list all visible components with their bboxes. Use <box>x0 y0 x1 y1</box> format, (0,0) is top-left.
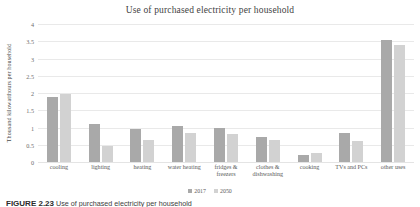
x-axis-label: heating <box>122 164 164 186</box>
x-axis-label: water heating <box>163 164 205 186</box>
y-tick-label: 0.5 <box>26 141 34 148</box>
figure-caption-rest: Use of purchased electricity per househo… <box>54 200 192 207</box>
y-tick-label: 1.5 <box>26 107 34 114</box>
bar[interactable] <box>185 133 196 162</box>
bar[interactable] <box>381 40 392 162</box>
bars-layer <box>38 24 414 162</box>
plot-area: 43.532.521.510.50 <box>38 24 414 162</box>
y-tick-label: 2 <box>31 90 34 97</box>
x-axis-labels: coolinglightingheatingwater heatingfridg… <box>38 164 414 186</box>
x-axis-label: clothes & dishwashing <box>247 164 289 186</box>
legend-item[interactable]: 2017 <box>188 188 206 194</box>
bar[interactable] <box>269 140 280 162</box>
chart-title: Use of purchased electricity per househo… <box>0 5 420 15</box>
chart-legend: 20172050 <box>0 188 420 194</box>
bar[interactable] <box>298 155 309 162</box>
x-axis-label: cooking <box>289 164 331 186</box>
y-tick-label: 1 <box>31 124 34 131</box>
bar[interactable] <box>89 124 100 162</box>
y-axis-title-label: Thousand kilowatthours per household <box>7 44 13 143</box>
bar-group <box>122 24 164 162</box>
bar[interactable] <box>47 97 58 162</box>
legend-item[interactable]: 2050 <box>214 188 232 194</box>
bar-group <box>372 24 414 162</box>
bar-group <box>80 24 122 162</box>
x-axis-label: fridges & freezers <box>205 164 247 186</box>
legend-swatch-icon <box>188 189 192 193</box>
bar[interactable] <box>339 133 350 162</box>
y-axis-title: Thousand kilowatthours per household <box>4 24 15 162</box>
x-axis-label: lighting <box>80 164 122 186</box>
y-tick-label: 4 <box>31 21 34 28</box>
x-axis-label: TVs and PCs <box>330 164 372 186</box>
bar-group <box>38 24 80 162</box>
bar[interactable] <box>130 129 141 162</box>
bar[interactable] <box>214 128 225 162</box>
bar-group <box>330 24 372 162</box>
bar[interactable] <box>60 94 71 162</box>
figure-caption-text: FIGURE 2.23 Use of purchased electricity… <box>6 200 420 207</box>
bar[interactable] <box>352 141 363 162</box>
x-axis-label: cooling <box>38 164 80 186</box>
bar-group <box>205 24 247 162</box>
figure-container: Use of purchased electricity per househo… <box>0 0 420 207</box>
bar[interactable] <box>143 140 154 162</box>
legend-label: 2017 <box>194 188 206 194</box>
grid-line: 0 <box>38 162 414 163</box>
y-tick-label: 2.5 <box>26 72 34 79</box>
legend-swatch-icon <box>214 189 218 193</box>
bar[interactable] <box>256 137 267 162</box>
bar[interactable] <box>311 153 322 162</box>
bar[interactable] <box>172 126 183 162</box>
bar[interactable] <box>394 45 405 162</box>
bar-group <box>163 24 205 162</box>
y-tick-label: 0 <box>31 159 34 166</box>
y-tick-label: 3 <box>31 55 34 62</box>
figure-caption-label: FIGURE 2.23 <box>6 200 54 207</box>
bar[interactable] <box>227 134 238 162</box>
bar[interactable] <box>102 146 113 162</box>
bar-group <box>289 24 331 162</box>
legend-label: 2050 <box>220 188 232 194</box>
y-tick-label: 3.5 <box>26 38 34 45</box>
bar-group <box>247 24 289 162</box>
x-axis-label: other uses <box>372 164 414 186</box>
figure-caption: FIGURE 2.23 Use of purchased electricity… <box>6 200 420 207</box>
